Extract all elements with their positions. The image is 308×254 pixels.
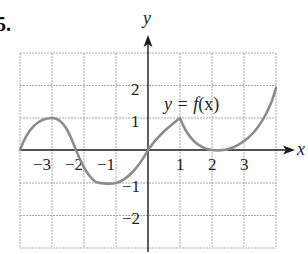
y-tick-label: −2 bbox=[122, 209, 140, 228]
x-tick-label: 1 bbox=[176, 155, 185, 174]
x-axis bbox=[20, 146, 295, 155]
y-tick-label: 2 bbox=[131, 80, 140, 99]
y-tick-label: 1 bbox=[131, 112, 140, 131]
x-tick-labels: −3 −2 −1 1 2 3 bbox=[33, 155, 249, 174]
x-axis-label: x bbox=[296, 139, 305, 159]
function-label: y = f(x) bbox=[162, 94, 219, 115]
x-tick-label: −1 bbox=[97, 155, 115, 174]
y-tick-labels: 2 1 −1 −2 bbox=[122, 80, 140, 228]
x-tick-label: 3 bbox=[240, 155, 249, 174]
y-axis-label: y bbox=[141, 8, 151, 28]
graph-figure: 5. y x −3 −2 −1 1 2 3 2 1 bbox=[0, 0, 308, 254]
x-tick-label: −3 bbox=[33, 155, 51, 174]
x-tick-label: 2 bbox=[208, 155, 217, 174]
problem-number: 5. bbox=[0, 13, 11, 35]
